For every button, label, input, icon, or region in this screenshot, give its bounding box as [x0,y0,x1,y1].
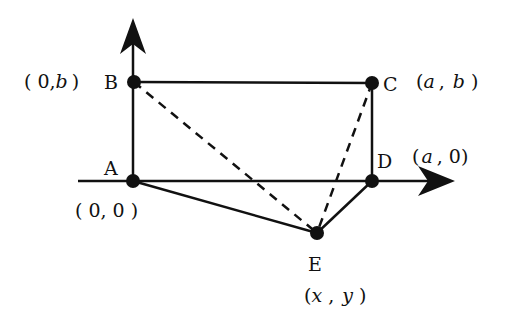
point-a [126,174,140,188]
coord-a: ( 0, 0 ) [75,199,138,221]
coord-e: (x,y) [304,284,366,306]
coord-c-sep: , [439,70,445,92]
coord-b-close: ) [72,70,79,92]
label-e: E [308,253,322,275]
coord-c-b: b [453,70,465,92]
coord-c-open: ( [416,70,423,92]
coord-e-x: x [311,284,322,306]
point-c [365,76,379,90]
coord-b: ( 0,b) [24,70,79,92]
coord-c: (a,b) [416,70,478,92]
coord-e-open: ( [304,284,311,306]
segment-bc [134,82,372,83]
coord-d-a: a [421,145,432,167]
point-b [127,75,141,89]
segment-ae [133,181,317,233]
coord-e-close: ) [359,284,366,306]
point-e [310,226,324,240]
coord-b-open: ( 0, [24,70,56,92]
coord-c-close: ) [471,70,478,92]
coord-c-a: a [423,70,434,92]
segment-be-dashed [134,82,317,233]
coord-d: (a, 0) [412,145,468,167]
coord-d-rest: , 0) [437,145,469,167]
segment-ce-dashed [317,83,372,233]
label-b: B [104,71,118,93]
point-d [365,174,379,188]
coord-b-var: b [56,70,68,92]
label-c: C [383,73,398,95]
rectangle-diagram: A B C D E ( 0, 0 ) ( 0,b) (a,b) (a, 0) (… [0,0,532,321]
label-a: A [103,157,118,179]
coord-e-y: y [341,284,353,306]
label-d: D [377,150,392,172]
coord-d-open: ( [412,145,419,167]
coord-e-sep: , [328,284,334,306]
